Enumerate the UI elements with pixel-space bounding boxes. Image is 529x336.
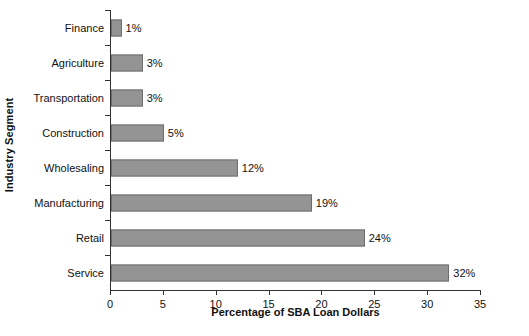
bar-row: Retail24% <box>110 220 480 255</box>
bar-value-label: 19% <box>316 197 338 209</box>
y-axis-tick <box>105 45 110 46</box>
category-label: Wholesaling <box>44 162 104 174</box>
x-axis-tick <box>163 290 164 295</box>
category-label: Transportation <box>33 92 104 104</box>
bar <box>111 194 312 211</box>
bar <box>111 54 143 71</box>
bar <box>111 124 164 141</box>
category-label: Retail <box>76 232 104 244</box>
y-axis-tick <box>105 185 110 186</box>
bar <box>111 19 122 36</box>
y-axis-tick <box>105 150 110 151</box>
bar-value-label: 1% <box>126 22 142 34</box>
plot-area: Finance1%Agriculture3%Transportation3%Co… <box>110 10 480 290</box>
x-axis-line <box>110 290 481 291</box>
bar-row: Transportation3% <box>110 80 480 115</box>
x-axis-tick <box>110 290 111 295</box>
bar-value-label: 3% <box>147 92 163 104</box>
category-label: Agriculture <box>51 57 104 69</box>
bar <box>111 159 238 176</box>
bar-value-label: 12% <box>242 162 264 174</box>
y-axis-tick <box>105 220 110 221</box>
y-axis-tick <box>105 80 110 81</box>
bar <box>111 89 143 106</box>
y-axis-tick <box>105 255 110 256</box>
x-axis-tick <box>374 290 375 295</box>
bar-row: Wholesaling12% <box>110 150 480 185</box>
category-label: Service <box>67 267 104 279</box>
category-label: Construction <box>42 127 104 139</box>
bar <box>111 229 365 246</box>
y-axis-title-text: Industry Segment <box>3 98 15 193</box>
category-label: Finance <box>65 22 104 34</box>
x-axis-title: Percentage of SBA Loan Dollars <box>110 306 481 318</box>
bar-chart: Industry Segment Finance1%Agriculture3%T… <box>0 0 529 336</box>
bar-row: Construction5% <box>110 115 480 150</box>
bar-row: Service32% <box>110 255 480 290</box>
category-label: Manufacturing <box>34 197 104 209</box>
bar-value-label: 5% <box>168 127 184 139</box>
bar <box>111 264 449 281</box>
bar-value-label: 24% <box>369 232 391 244</box>
bar-row: Finance1% <box>110 10 480 45</box>
y-axis-title: Industry Segment <box>0 0 18 290</box>
bar-row: Manufacturing19% <box>110 185 480 220</box>
bar-value-label: 3% <box>147 57 163 69</box>
bar-row: Agriculture3% <box>110 45 480 80</box>
bar-value-label: 32% <box>453 267 475 279</box>
x-axis-tick <box>427 290 428 295</box>
x-axis-tick <box>321 290 322 295</box>
x-axis-tick <box>480 290 481 295</box>
y-axis-tick <box>105 10 110 11</box>
x-axis-tick <box>269 290 270 295</box>
x-axis-tick <box>216 290 217 295</box>
y-axis-tick <box>105 115 110 116</box>
